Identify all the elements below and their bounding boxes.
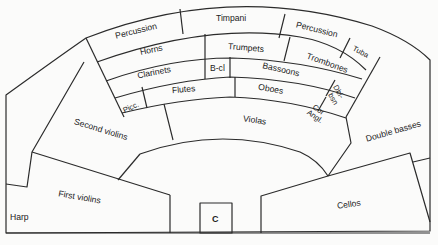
winds-right-edge: [346, 57, 380, 117]
divider-perc-timpani: [180, 9, 183, 34]
label-trombones: Trombones: [305, 51, 349, 75]
orchestra-seating-diagram: Percussion Timpani Percussion Tuba Horns…: [0, 0, 438, 245]
label-second-violins: Second violins: [73, 116, 129, 142]
label-bassoons: Bassoons: [262, 60, 301, 78]
label-oboes: Oboes: [258, 82, 285, 96]
label-percussion-left: Percussion: [114, 21, 158, 41]
label-conductor: C: [212, 214, 219, 224]
label-harp: Harp: [10, 212, 29, 222]
divider-trumpets-trombones: [284, 37, 290, 61]
violas-inner-arc: [140, 139, 328, 176]
cellos-outline: [261, 153, 430, 233]
label-timpani: Timpani: [216, 13, 246, 23]
divider-second-violins-violas: [164, 104, 173, 140]
label-horns: Horns: [139, 42, 164, 57]
label-violas: Violas: [243, 113, 267, 126]
label-cellos: Cellos: [336, 198, 361, 211]
label-trumpets: Trumpets: [228, 41, 265, 54]
label-first-violins: First violins: [58, 188, 102, 205]
label-clarinets: Clarinets: [136, 64, 171, 80]
violas-right-edge: [328, 117, 351, 176]
label-percussion-right: Percussion: [295, 19, 339, 39]
label-piccolo: Picc.: [121, 100, 140, 115]
label-double-basses: Double basses: [365, 118, 422, 143]
double-basses-lower-edge: [413, 158, 430, 162]
second-first-divider: [32, 152, 170, 195]
label-tuba: Tuba: [351, 44, 371, 60]
second-violins-inner: [118, 154, 140, 180]
winds-left-edge: [86, 38, 124, 117]
label-flutes: Flutes: [172, 83, 196, 95]
second-violins-outline: [6, 62, 84, 187]
label-bass-clarinet: B-cl: [210, 63, 225, 73]
